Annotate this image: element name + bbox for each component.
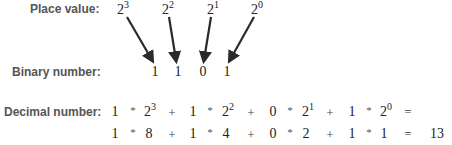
term-power: 22: [222, 104, 234, 120]
term-value: 2: [303, 126, 310, 142]
multiply-sign: *: [287, 126, 293, 138]
plus-sign: +: [247, 127, 254, 143]
multiply-sign: *: [130, 126, 136, 138]
plus-sign: +: [326, 127, 333, 143]
arrow-2-0: [230, 17, 254, 60]
term-value: 1: [381, 126, 388, 142]
binary-digit: 1: [224, 64, 231, 80]
term-value: 8: [146, 126, 153, 142]
term-digit: 1: [349, 126, 356, 142]
multiply-sign: *: [366, 104, 372, 116]
arrow-2-3: [127, 17, 152, 60]
multiply-sign: *: [287, 104, 293, 116]
term-digit: 1: [190, 126, 197, 142]
term-digit: 1: [112, 104, 119, 120]
plus-sign: +: [168, 105, 175, 121]
term-digit: 0: [270, 104, 277, 120]
term-power: 23: [144, 104, 156, 120]
plus-sign: +: [247, 105, 254, 121]
plus-sign: +: [326, 105, 333, 121]
result-value: 13: [430, 126, 444, 142]
equals-sign: =: [404, 126, 411, 142]
binary-digit: 1: [152, 64, 159, 80]
multiply-sign: *: [207, 104, 213, 116]
term-digit: 1: [190, 104, 197, 120]
term-digit: 1: [349, 104, 356, 120]
arrow-2-2: [169, 17, 176, 60]
term-digit: 1: [112, 126, 119, 142]
term-value: 4: [223, 126, 230, 142]
term-power: 20: [380, 104, 392, 120]
multiply-sign: *: [130, 104, 136, 116]
arrow-2-1: [204, 17, 211, 60]
term-power: 21: [302, 104, 314, 120]
multiply-sign: *: [366, 126, 372, 138]
binary-digit: 1: [175, 64, 182, 80]
equals-sign: =: [404, 104, 411, 120]
term-digit: 0: [270, 126, 277, 142]
plus-sign: +: [168, 127, 175, 143]
multiply-sign: *: [207, 126, 213, 138]
binary-digit: 0: [200, 64, 207, 80]
